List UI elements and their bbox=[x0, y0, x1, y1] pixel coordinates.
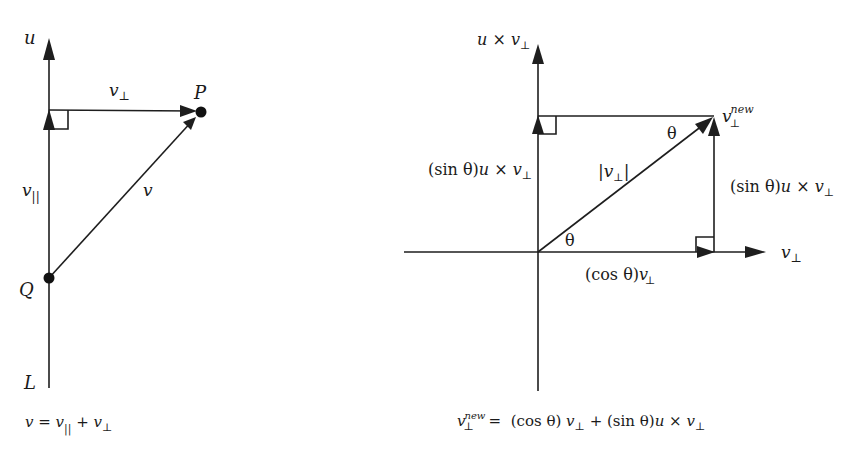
right-formula: vnew⊥ = (cos θ) v⊥ + (sin θ)u × v⊥ bbox=[457, 410, 705, 433]
right-diagram: u × v⊥ v⊥ (sin θ)u × v⊥ (sin θ)u × v⊥ (c… bbox=[404, 30, 834, 433]
right-sin-component-label: (sin θ)u × v⊥ bbox=[730, 177, 834, 199]
v-parallel-label: v|| bbox=[22, 180, 40, 204]
left-diagram: u P Q L v⊥ v|| v v = v|| + v⊥ bbox=[19, 27, 207, 436]
v-parallel-arrowhead-icon bbox=[43, 109, 55, 130]
u-cross-v-perp-label: u × v⊥ bbox=[477, 30, 530, 52]
v-perp-axis-arrowhead-icon bbox=[745, 246, 766, 258]
v-perp-vector bbox=[49, 110, 193, 111]
point-P-dot bbox=[196, 107, 207, 118]
u-cross-v-axis-arrowhead-icon bbox=[532, 44, 544, 64]
left-sin-component-label: (sin θ)u × v⊥ bbox=[428, 160, 532, 182]
cos-component-arrowhead-icon bbox=[697, 246, 715, 258]
Q-label: Q bbox=[19, 279, 34, 300]
v-perp-axis-label: v⊥ bbox=[781, 242, 802, 265]
v-new-vector bbox=[538, 122, 707, 252]
cos-component-label: (cos θ)v⊥ bbox=[585, 265, 655, 287]
sin-component-arrowhead-icon bbox=[532, 115, 544, 134]
v-perp-arrowhead-icon bbox=[180, 105, 197, 117]
v-perp-magnitude-label: |v⊥| bbox=[598, 161, 629, 184]
v-new-label: vnew⊥ bbox=[722, 103, 754, 130]
point-Q-dot bbox=[44, 273, 55, 284]
theta-bottom-label: θ bbox=[565, 231, 575, 250]
v-perp-label: v⊥ bbox=[109, 80, 130, 103]
u-label: u bbox=[24, 27, 36, 48]
v-vector bbox=[49, 120, 193, 278]
theta-top-label: θ bbox=[667, 124, 677, 143]
L-label: L bbox=[23, 372, 36, 393]
left-formula: v = v|| + v⊥ bbox=[25, 413, 112, 436]
P-label: P bbox=[193, 82, 207, 103]
vector-rotation-figure: u P Q L v⊥ v|| v v = v|| + v⊥ u × v⊥ v⊥ … bbox=[0, 0, 855, 461]
v-label: v bbox=[143, 180, 153, 200]
u-arrowhead-icon bbox=[43, 38, 55, 60]
